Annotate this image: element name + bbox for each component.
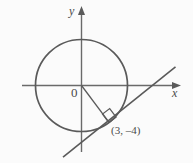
y-axis [78,6,85,152]
tangent-line [63,67,176,157]
origin-label: 0 [71,86,78,99]
y-axis-arrowhead [78,6,85,15]
geometry-figure: y x 0 (3, –4) [0,0,193,163]
figure-canvas [0,0,193,163]
x-axis-label: x [172,87,177,99]
tangent-point-label: (3, –4) [111,125,140,136]
y-axis-label: y [69,5,74,17]
x-axis [22,82,181,89]
